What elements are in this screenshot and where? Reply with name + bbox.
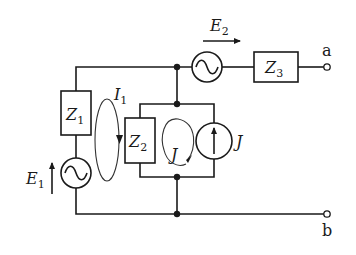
terminal-a: a <box>322 41 332 70</box>
junction-dot <box>174 211 180 217</box>
loop-arrow-icon <box>186 155 192 163</box>
svg-text:J: J <box>233 132 244 151</box>
terminal-b: b <box>322 211 332 240</box>
junction-dot <box>174 174 180 180</box>
voltage-source-e2: E2 <box>192 16 240 82</box>
loop-arrow-icon <box>116 135 123 144</box>
impedance-z1: Z1 <box>61 91 91 135</box>
svg-text:b: b <box>322 221 332 240</box>
impedance-z3: Z3 <box>254 52 298 82</box>
loop-current-j: J <box>162 119 193 165</box>
svg-text:E1: E1 <box>25 169 45 191</box>
circuit-diagram: Z1 E1 E2 Z3 Z2 J I1 J <box>0 0 356 255</box>
impedance-z2: Z2 <box>125 118 155 163</box>
junction-dot <box>174 101 180 107</box>
loop-current-i1: I1 <box>95 85 127 181</box>
svg-text:I1: I1 <box>113 85 127 107</box>
svg-text:a: a <box>322 41 332 60</box>
junction-dot <box>174 64 180 70</box>
current-source-j: J <box>196 123 244 159</box>
voltage-source-e1: E1 <box>25 158 91 194</box>
svg-text:E2: E2 <box>209 16 229 38</box>
